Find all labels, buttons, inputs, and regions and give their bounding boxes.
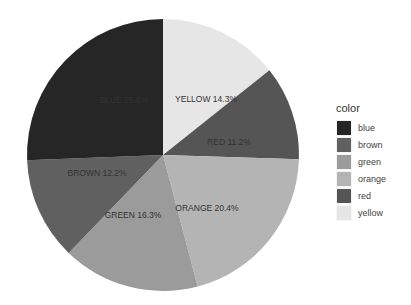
slice-label-brown: BROWN 12.2% xyxy=(67,168,126,178)
slice-label-yellow: YELLOW 14.3% xyxy=(175,94,237,104)
legend-key-red xyxy=(336,188,352,204)
legend-label: red xyxy=(358,191,371,201)
legend-title: color xyxy=(336,101,408,115)
slice-label-orange: ORANGE 20.4% xyxy=(175,203,239,213)
legend-item-blue: blue xyxy=(336,119,408,136)
legend-item-green: green xyxy=(336,153,408,170)
pie-slices xyxy=(27,19,299,291)
legend-item-orange: orange xyxy=(336,170,408,187)
legend-key-green xyxy=(336,154,352,170)
legend-label: blue xyxy=(358,123,375,133)
legend-label: brown xyxy=(358,140,383,150)
legend-key-yellow xyxy=(336,205,352,221)
pie-chart: YELLOW 14.3%RED 11.2%ORANGE 20.4%GREEN 1… xyxy=(0,0,411,305)
legend-label: green xyxy=(358,157,381,167)
legend-key-orange xyxy=(336,171,352,187)
pie-slice-blue xyxy=(27,19,163,160)
legend-key-blue xyxy=(336,120,352,136)
legend-label: yellow xyxy=(358,208,383,218)
legend-item-red: red xyxy=(336,187,408,204)
legend: color blue brown green orange red yellow xyxy=(336,101,408,221)
legend-item-yellow: yellow xyxy=(336,204,408,221)
legend-key-brown xyxy=(336,137,352,153)
legend-item-brown: brown xyxy=(336,136,408,153)
slice-label-green: GREEN 16.3% xyxy=(105,210,162,220)
legend-label: orange xyxy=(358,174,386,184)
slice-label-blue: BLUE 25.6% xyxy=(100,95,149,105)
slice-label-red: RED 11.2% xyxy=(207,137,251,147)
